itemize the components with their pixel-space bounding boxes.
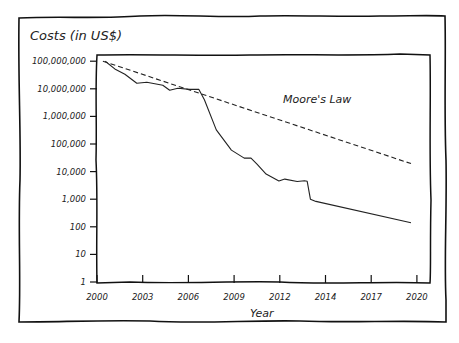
y-tick-label: 10,000 xyxy=(56,167,86,177)
x-tick-label: 2014 xyxy=(315,292,337,302)
plot-series xyxy=(103,61,411,223)
y-tick-label: 1,000,000 xyxy=(43,111,86,121)
x-axis-ticks: 20002003200620092012201420172020 xyxy=(86,275,428,302)
y-tick-label: 100,000,000 xyxy=(32,56,86,66)
plot-frame xyxy=(96,54,431,283)
x-tick-label: 2009 xyxy=(223,292,245,302)
chart-canvas: Costs (in US$) Year 100,000,00010,000,00… xyxy=(0,0,459,343)
y-axis-title: Costs (in US$) xyxy=(30,28,122,43)
y-axis-ticks: 100,000,00010,000,0001,000,000100,00010,… xyxy=(32,56,97,287)
moores-law-label: Moore's Law xyxy=(283,93,351,106)
y-tick-label: 1,000 xyxy=(62,194,86,204)
x-tick-label: 2006 xyxy=(178,292,200,302)
y-tick-label: 10,000,000 xyxy=(37,84,86,94)
x-tick-label: 2012 xyxy=(269,292,291,302)
x-tick-label: 2020 xyxy=(406,292,428,302)
moores-law-line xyxy=(103,61,411,163)
x-tick-label: 2003 xyxy=(132,292,154,302)
x-tick-label: 2017 xyxy=(360,292,382,302)
y-tick-label: 10 xyxy=(75,249,86,259)
x-tick-label: 2000 xyxy=(86,292,108,302)
cost-line xyxy=(105,61,411,223)
x-axis-title: Year xyxy=(250,307,275,320)
y-tick-label: 100,000 xyxy=(51,139,86,149)
y-tick-label: 1 xyxy=(81,277,86,287)
y-tick-label: 100 xyxy=(70,222,86,232)
annotations: Moore's Law xyxy=(283,93,351,106)
